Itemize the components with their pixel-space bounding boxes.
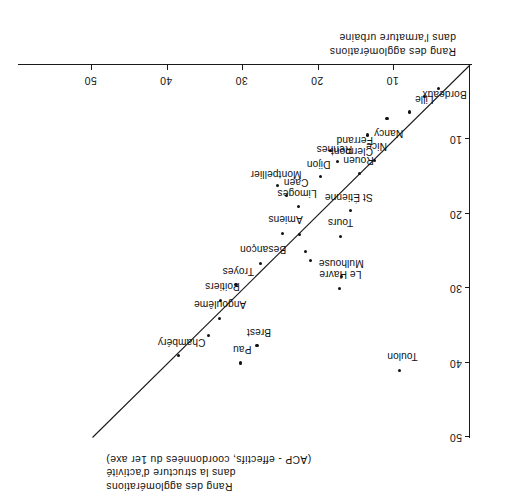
y-tick-40: 40 <box>465 362 470 363</box>
caption-line: Rang des agglomérations <box>106 480 356 494</box>
point-label: Angoulême <box>194 299 246 310</box>
caption-line: Rang des agglomérations <box>330 45 456 59</box>
data-point-unlabeled[interactable] <box>304 250 307 253</box>
x-tick-label: 50 <box>80 75 102 87</box>
point-label: Tours <box>328 217 353 228</box>
caption-line: dans l'armature urbaine <box>330 31 456 45</box>
y-tick-label: 20 <box>440 209 462 221</box>
y-tick-label: 30 <box>440 284 462 296</box>
data-point-le-havre[interactable] <box>338 287 341 290</box>
data-point-besançon[interactable] <box>259 262 262 265</box>
y-tick-30: 30 <box>465 288 470 289</box>
x-tick-label: 30 <box>231 75 253 87</box>
point-label: Pau <box>233 343 251 354</box>
point-label: Poitiers <box>205 281 240 292</box>
y-tick-50: 50 <box>465 437 470 438</box>
point-label: Lille <box>415 93 434 104</box>
scatter-figure: 1020304050 1020304050 BordeauxLilleNancy… <box>0 0 516 502</box>
point-label: Mulhouse <box>319 257 364 268</box>
data-point-pau[interactable] <box>239 361 242 364</box>
point-label: Troyes <box>223 265 254 276</box>
y-tick-10: 10 <box>465 139 470 140</box>
point-label: Toulon <box>387 351 418 362</box>
x-tick-40: 40 <box>167 65 168 70</box>
point-label: Clermont- Ferrand <box>327 135 373 156</box>
x-tick-50: 50 <box>92 65 93 70</box>
point-label: St Étienne <box>325 192 373 203</box>
x-axis-caption: Rang des agglomérationsdans la structure… <box>106 453 356 494</box>
y-tick-label: 10 <box>440 135 462 147</box>
x-tick-20: 20 <box>318 65 319 70</box>
y-tick-label: 40 <box>440 358 462 370</box>
y-tick-label: 50 <box>440 433 462 445</box>
x-tick-label: 10 <box>382 75 404 87</box>
point-label: Limoges <box>277 187 316 198</box>
caption-line: dans la structure d'activité <box>106 466 356 480</box>
point-label: Nancy <box>374 127 403 138</box>
data-point-angoulême[interactable] <box>218 317 221 320</box>
x-tick-label: 40 <box>155 75 177 87</box>
point-label: Le Havre <box>319 269 361 280</box>
x-tick-label: 20 <box>306 75 328 87</box>
point-label: Chambéry <box>158 336 206 347</box>
y-axis-caption: Rang des agglomérationsdans l'armature u… <box>330 31 456 58</box>
point-label: Brest <box>247 326 271 337</box>
point-label: Besançon <box>240 244 286 255</box>
caption-line: (ACP - effectifs, coordonnées du 1er axe… <box>106 453 356 467</box>
point-label: Dijon <box>307 158 331 169</box>
y-tick-20: 20 <box>465 213 470 214</box>
data-point-tours[interactable] <box>339 235 342 238</box>
point-label: Amiens <box>268 214 303 225</box>
data-point-unlabeled[interactable] <box>385 117 388 120</box>
x-tick-10: 10 <box>394 65 395 70</box>
x-tick-30: 30 <box>243 65 244 70</box>
data-point-lille[interactable] <box>408 110 411 113</box>
point-label: Caen <box>284 177 309 188</box>
